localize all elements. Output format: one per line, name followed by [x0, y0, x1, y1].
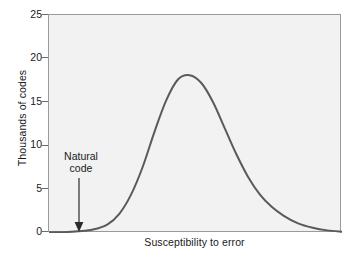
y-tick-label: 10: [20, 139, 42, 150]
y-tick-label-group: 25 20 15 10 5 0: [18, 0, 42, 257]
y-tick-label: 0: [20, 226, 42, 237]
y-tick-label: 5: [20, 183, 42, 194]
plot-area: [48, 14, 341, 232]
y-tick-label: 20: [20, 52, 42, 63]
y-tick-label: 25: [20, 9, 42, 20]
natural-code-arrow-icon: [72, 178, 86, 234]
natural-code-annotation: Natural code: [52, 150, 110, 174]
annotation-line-2: code: [52, 162, 110, 174]
annotation-line-1: Natural: [52, 150, 110, 162]
y-tick-label: 15: [20, 96, 42, 107]
x-axis-label: Susceptibility to error: [48, 236, 341, 248]
chart-figure: Thousands of codes 25 20 15 10 5 0 Natur…: [0, 0, 353, 257]
distribution-curve: [49, 15, 342, 233]
